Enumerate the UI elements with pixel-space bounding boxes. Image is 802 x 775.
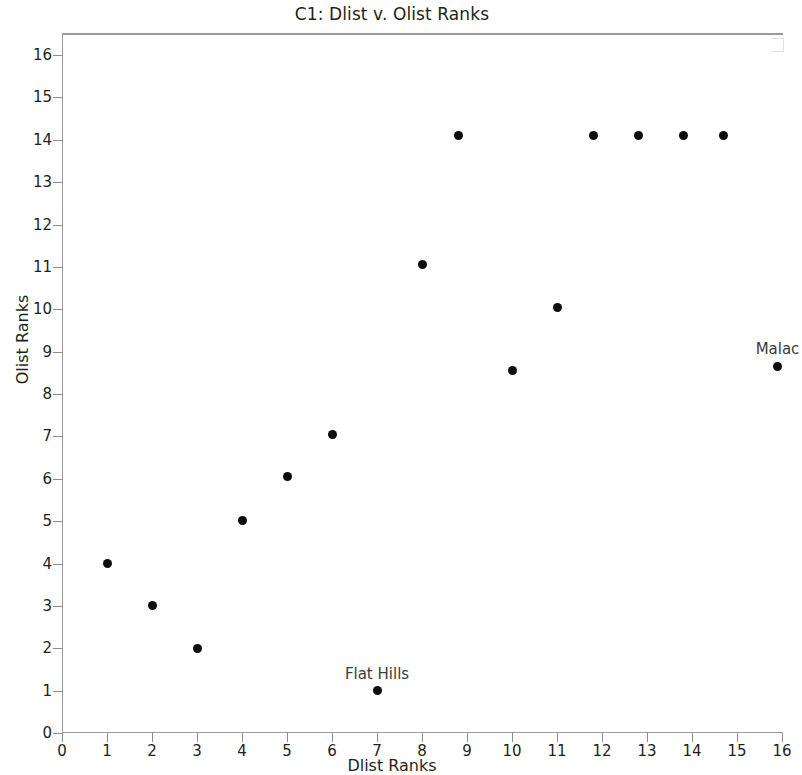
x-axis-label: Dlist Ranks — [0, 756, 784, 775]
y-tick-label: 11 — [18, 258, 52, 276]
y-tick-label: 2 — [18, 639, 52, 657]
y-tick-label: 3 — [18, 597, 52, 615]
x-tick — [152, 733, 153, 742]
x-tick — [107, 733, 108, 742]
data-point — [103, 559, 112, 568]
plot-area — [62, 33, 783, 733]
x-tick — [737, 733, 738, 742]
y-tick-label: 7 — [18, 427, 52, 445]
y-tick — [53, 733, 62, 734]
y-tick — [53, 140, 62, 141]
x-tick — [242, 733, 243, 742]
data-point — [679, 131, 688, 140]
x-tick — [512, 733, 513, 742]
y-tick — [53, 648, 62, 649]
x-tick — [332, 733, 333, 742]
y-tick — [53, 606, 62, 607]
y-tick-label: 13 — [18, 173, 52, 191]
y-tick — [53, 394, 62, 395]
y-tick-label: 4 — [18, 555, 52, 573]
x-tick — [287, 733, 288, 742]
data-point — [148, 601, 157, 610]
y-tick-label: 5 — [18, 512, 52, 530]
x-tick — [422, 733, 423, 742]
x-tick — [647, 733, 648, 742]
y-tick — [53, 352, 62, 353]
data-point — [589, 131, 598, 140]
y-tick — [53, 309, 62, 310]
y-tick-label: 15 — [18, 88, 52, 106]
point-annotation: Malac — [756, 340, 800, 358]
data-point — [454, 131, 463, 140]
y-tick-label: 1 — [18, 682, 52, 700]
data-point — [418, 260, 427, 269]
x-tick — [557, 733, 558, 742]
x-tick — [197, 733, 198, 742]
y-tick-label: 16 — [18, 46, 52, 64]
y-tick-label: 12 — [18, 216, 52, 234]
x-tick — [62, 733, 63, 742]
data-point — [238, 516, 247, 525]
y-tick — [53, 267, 62, 268]
data-point — [634, 131, 643, 140]
x-tick — [602, 733, 603, 742]
point-annotation: Flat Hills — [345, 665, 409, 683]
data-point — [719, 131, 728, 140]
y-tick — [53, 479, 62, 480]
x-tick — [467, 733, 468, 742]
y-tick-label: 14 — [18, 131, 52, 149]
x-tick — [692, 733, 693, 742]
y-tick — [53, 182, 62, 183]
data-point — [328, 430, 337, 439]
chart-title: C1: Dlist v. Olist Ranks — [0, 4, 784, 24]
x-tick — [377, 733, 378, 742]
y-tick — [53, 521, 62, 522]
data-point — [193, 644, 202, 653]
data-point — [283, 472, 292, 481]
y-tick — [53, 691, 62, 692]
y-tick — [53, 225, 62, 226]
y-tick — [53, 97, 62, 98]
y-tick — [53, 436, 62, 437]
y-axis-label: Olist Ranks — [13, 280, 32, 400]
data-point — [508, 366, 517, 375]
data-point — [373, 686, 382, 695]
x-tick — [782, 733, 783, 742]
data-point — [553, 303, 562, 312]
corner-artifact — [771, 38, 784, 52]
y-tick-label: 0 — [18, 724, 52, 742]
y-tick — [53, 564, 62, 565]
y-tick-label: 6 — [18, 470, 52, 488]
y-tick — [53, 55, 62, 56]
data-point — [773, 362, 782, 371]
